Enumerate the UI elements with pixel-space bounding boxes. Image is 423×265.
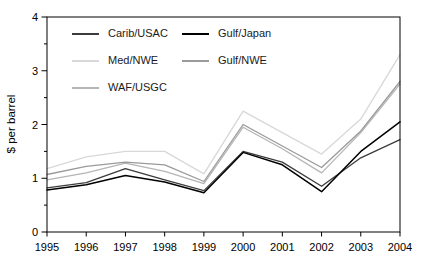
- y-tick-label-2: 2: [32, 119, 38, 131]
- legend-label-med-nwe: Med/NWE: [108, 55, 158, 66]
- gulf-nwe-line-swatch: [182, 60, 209, 62]
- legend-label-gulf-japan: Gulf/Japan: [218, 28, 271, 39]
- x-tick-label-2002: 2002: [309, 241, 333, 253]
- x-tick-label-2001: 2001: [270, 241, 294, 253]
- freight-rate-figure: 0123419951996199719981999200020012002200…: [0, 0, 423, 265]
- x-tick-label-1997: 1997: [113, 241, 137, 253]
- y-tick-label-4: 4: [32, 11, 38, 23]
- x-tick-label-2004: 2004: [388, 241, 412, 253]
- gulf-japan-line-swatch: [182, 33, 209, 35]
- y-tick-label-3: 3: [32, 65, 38, 77]
- carib-usac-line-swatch: [72, 33, 99, 35]
- legend-item-carib-usac: Carib/USAC: [72, 20, 182, 47]
- x-tick-label-1995: 1995: [35, 241, 59, 253]
- waf-usgc-line-swatch: [72, 87, 99, 89]
- legend-item-waf-usgc: WAF/USGC: [72, 74, 182, 101]
- x-tick-label-1996: 1996: [74, 241, 98, 253]
- legend-item-gulf-japan: Gulf/Japan: [182, 20, 271, 47]
- y-axis-title: $ per barrel: [5, 95, 17, 154]
- x-tick-label-1999: 1999: [192, 241, 216, 253]
- y-tick-label-0: 0: [32, 226, 38, 238]
- x-tick-label-2003: 2003: [349, 241, 373, 253]
- legend-label-carib-usac: Carib/USAC: [108, 28, 168, 39]
- y-tick-label-1: 1: [32, 172, 38, 184]
- legend-column-2: Gulf/Japan Gulf/NWE: [182, 20, 271, 101]
- med-nwe-line-swatch: [72, 60, 99, 62]
- legend-item-gulf-nwe: Gulf/NWE: [182, 47, 271, 74]
- legend-label-waf-usgc: WAF/USGC: [108, 82, 167, 93]
- legend-item-med-nwe: Med/NWE: [72, 47, 182, 74]
- legend: Carib/USAC Med/NWE WAF/USGC Gulf/Japan G…: [72, 20, 271, 101]
- legend-column-1: Carib/USAC Med/NWE WAF/USGC: [72, 20, 182, 101]
- x-tick-label-2000: 2000: [231, 241, 255, 253]
- legend-label-gulf-nwe: Gulf/NWE: [218, 55, 267, 66]
- x-tick-label-1998: 1998: [152, 241, 176, 253]
